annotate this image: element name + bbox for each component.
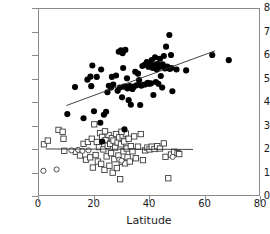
- data-point: [41, 168, 46, 173]
- data-point: [173, 66, 179, 72]
- data-point: [150, 92, 156, 98]
- data-point: [64, 111, 70, 117]
- data-point: [163, 44, 169, 50]
- series-open-squares: [41, 122, 182, 182]
- data-point: [86, 148, 91, 153]
- data-point: [90, 165, 95, 170]
- data-point: [170, 154, 175, 159]
- data-point: [124, 75, 130, 81]
- data-point: [158, 73, 164, 79]
- data-point: [107, 163, 112, 168]
- data-point: [122, 47, 128, 53]
- data-point: [120, 65, 126, 71]
- data-point: [98, 66, 104, 72]
- series-filled-circles: [64, 32, 232, 145]
- data-point: [133, 156, 138, 161]
- data-point: [121, 126, 127, 132]
- x-tick-mark-3: [205, 196, 206, 202]
- data-point: [60, 129, 65, 134]
- data-point: [108, 150, 113, 155]
- data-canvas: [39, 9, 259, 195]
- data-point: [109, 74, 115, 80]
- data-point: [87, 74, 93, 80]
- data-point: [127, 159, 132, 164]
- data-point: [157, 146, 162, 151]
- data-point: [177, 151, 182, 156]
- data-point: [166, 32, 172, 38]
- data-point: [135, 71, 141, 77]
- data-point: [140, 157, 145, 162]
- data-point: [114, 165, 119, 170]
- data-point: [92, 122, 97, 127]
- data-point: [126, 136, 131, 141]
- x-tick-mark-1: [94, 196, 95, 202]
- data-point: [183, 67, 189, 73]
- data-point: [166, 176, 171, 181]
- data-point: [117, 177, 122, 182]
- scatter-plot-figure: Ln (Torpor bout duration, h) Latitude 01…: [0, 0, 270, 234]
- data-point: [135, 144, 140, 149]
- data-point: [168, 52, 174, 58]
- data-point: [119, 158, 124, 163]
- data-point: [54, 167, 59, 172]
- data-point: [163, 154, 168, 159]
- data-point: [226, 57, 232, 63]
- x-axis-title: Latitude: [38, 214, 260, 227]
- data-point: [128, 144, 133, 149]
- x-tick-mark-4: [260, 196, 261, 202]
- data-point: [72, 84, 78, 90]
- data-point: [97, 120, 103, 126]
- x-tick-label-4: 80: [248, 199, 270, 209]
- data-point: [138, 131, 143, 136]
- data-point: [80, 115, 86, 121]
- data-point: [61, 136, 66, 141]
- data-point: [131, 134, 136, 139]
- data-point: [103, 109, 109, 115]
- data-point: [69, 148, 74, 153]
- data-point: [94, 139, 99, 144]
- data-point: [94, 74, 100, 80]
- data-point: [87, 155, 92, 160]
- data-point: [93, 152, 98, 157]
- data-point: [119, 94, 125, 100]
- x-tick-mark-0: [38, 196, 39, 202]
- data-point: [161, 141, 166, 146]
- data-point: [98, 161, 103, 166]
- data-point: [169, 88, 175, 94]
- data-point: [137, 102, 143, 108]
- data-point: [45, 138, 50, 143]
- data-point: [128, 102, 134, 108]
- data-point: [99, 138, 105, 144]
- x-tick-mark-2: [149, 196, 150, 202]
- data-point: [91, 108, 97, 114]
- data-point: [88, 83, 94, 89]
- data-point: [89, 62, 95, 68]
- data-point: [159, 85, 165, 91]
- plot-area: [38, 8, 260, 196]
- data-point: [161, 53, 167, 59]
- data-point: [110, 81, 116, 87]
- data-point: [102, 129, 107, 134]
